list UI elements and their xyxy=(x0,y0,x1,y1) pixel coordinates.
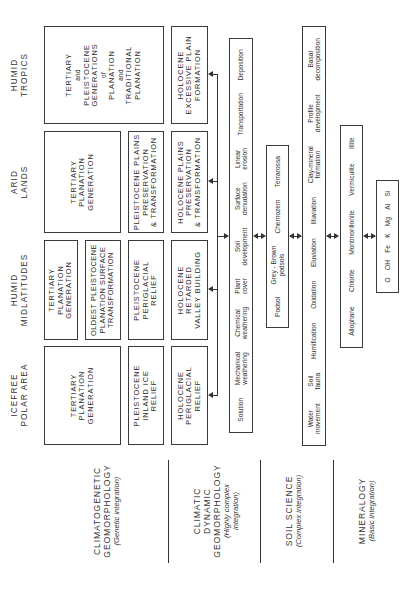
soil-types-box: Podsol Grey - Brownpodsols Chernozem Ter… xyxy=(266,145,289,328)
divider xyxy=(168,460,169,563)
element-al: Al xyxy=(384,204,391,210)
box-line: PLANATION xyxy=(107,50,116,99)
process-deposition: Deposition xyxy=(237,49,244,80)
soil-grey-brown-podsols: Grey - Brownpodsols xyxy=(270,246,285,285)
element-o: O xyxy=(384,277,391,282)
elements-box: O OH Fe K Mg Al Si xyxy=(376,180,399,293)
zone-header-line: LANDS xyxy=(20,166,29,199)
process-plant-cover: Plantcover xyxy=(234,278,249,294)
box-line: VALLEY BUILDING xyxy=(193,251,202,329)
soilproc-humification: Humification xyxy=(310,323,317,359)
tropics-tertiary-pleistocene-box: TERTIARY and PLEISTOCENE GENERATIONS of … xyxy=(44,26,164,124)
box-line: GENERATIONS xyxy=(90,43,99,106)
midlat-tertiary-box: TERTIARY PLANATION GENERATION xyxy=(44,240,78,340)
zone-header-line: TROPICS xyxy=(20,53,29,97)
box-line: GENERATION xyxy=(86,153,95,210)
zone-header-line: POLAR AREA xyxy=(20,364,29,427)
box-line: GENERATION xyxy=(86,367,95,424)
midlat-pleistocene-box: PLEISTOCENE PERIGLACIAL RELIEF xyxy=(128,240,164,340)
arid-pleistocene-box: PLEISTOCENE PLAINS PRESERVATION & TRANSF… xyxy=(128,131,164,233)
arrow-up-icon xyxy=(363,233,368,239)
integration-diagram: ICEFREE POLAR AREA HUMID MIDLATITUDES AR… xyxy=(0,0,406,589)
mineral-chlorite: Chlorite xyxy=(348,269,355,292)
discipline-mineralogy: MINERALOGY (Basic integration) xyxy=(357,451,376,571)
divider xyxy=(333,460,334,563)
zone-header-arid: ARID LANDS xyxy=(10,132,29,232)
process-mechanical-weathering: Mechanicalweathering xyxy=(234,352,249,385)
zone-header-line: HUMID xyxy=(10,59,19,91)
divider xyxy=(260,460,261,563)
element-si: Si xyxy=(384,191,391,197)
arid-tertiary-box: TERTIARY PLANATION GENERATION xyxy=(44,131,121,233)
box-line: GENERATION xyxy=(64,261,73,318)
icefree-pleistocene-box: PLEISTOCENE INLAND ICE RELIEF xyxy=(128,346,164,445)
midlat-oldest-pleistocene-box: OLDEST PLEISTOCENE PLANATION SURFACE TRA… xyxy=(85,240,121,340)
zone-header-midlatitudes: HUMID MIDLATITUDES xyxy=(10,240,29,340)
discipline-soil-science: SOIL SCIENCE (Complex integration) xyxy=(284,451,303,571)
zone-header-tropics: HUMID TROPICS xyxy=(10,25,29,125)
clay-minerals-box: Allophane Chlorite Montmorillonite Vermi… xyxy=(340,125,363,348)
process-chemical-weathering: Chemicalweathering xyxy=(234,307,249,339)
process-soil-development: Soildevelopment xyxy=(234,228,249,266)
soilproc-profile-development: Profiledevelopment xyxy=(307,95,322,133)
icefree-tertiary-box: TERTIARY PLANATION GENERATION xyxy=(44,346,121,445)
process-solution: Solution xyxy=(237,398,244,422)
box-line: RELIEF xyxy=(149,274,158,305)
soil-podsol: Podsol xyxy=(274,297,281,317)
element-oh: OH xyxy=(384,260,391,270)
arrow-up-icon xyxy=(289,233,294,239)
box-line: & TRANSFORMATION xyxy=(193,137,202,227)
element-fe: Fe xyxy=(384,245,391,253)
arid-holocene-box: HOLOCENE PLAINS PRESERVATION & TRANSFORM… xyxy=(171,131,208,233)
process-linear-erosion: Linearerosion xyxy=(234,148,249,170)
midlat-holocene-box: HOLOCENE RETARDED VALLEY BUILDING xyxy=(171,240,208,340)
arrow-up-icon xyxy=(253,233,258,239)
box-line: TERTIARY xyxy=(64,53,73,96)
arrow-up-icon xyxy=(208,286,213,292)
zone-header-line: HUMID xyxy=(10,274,19,306)
box-line: PLANATION xyxy=(133,50,142,99)
mineral-allophane: Allophane xyxy=(348,306,355,335)
mineral-vermiculite: Vermiculite xyxy=(348,163,355,195)
icefree-holocene-box: HOLOCENE PERIGLACIAL RELIEF xyxy=(171,346,208,445)
soilproc-clay-mineral-formation: Clay-mineralformation xyxy=(307,146,322,183)
arrow-up-icon xyxy=(208,392,213,398)
soil-processes-box: Watermovement Soilfauna Humification Oxi… xyxy=(302,26,326,446)
dynamic-processes-box: Solution Mechanicalweathering Chemicalwe… xyxy=(229,38,253,433)
box-line: FORMATION xyxy=(193,49,202,101)
soil-terrarossa: Terrarossa xyxy=(274,156,281,187)
soilproc-oxidation: Oxidation xyxy=(310,281,317,309)
arrow-up-icon xyxy=(208,178,213,184)
box-line: RELIEF xyxy=(193,380,202,411)
arrow-up-icon xyxy=(208,71,213,77)
mineral-montmorillonite: Montmorillonite xyxy=(348,210,355,255)
process-surface-denudation: Surfacedenudation xyxy=(234,182,249,215)
soilproc-soil-fauna: Soilfauna xyxy=(307,373,322,390)
box-line: RELIEF xyxy=(149,380,158,411)
process-transportation: Transportation xyxy=(237,93,244,135)
element-mg: Mg xyxy=(384,217,391,226)
discipline-climatic-dynamic: CLIMATIC DYNAMIC GEOMORPHOLOGY (Highly c… xyxy=(192,451,240,571)
soil-chernozem: Chernozem xyxy=(274,199,281,233)
zone-header-line: ICEFREE xyxy=(10,373,19,416)
soilproc-basal-decomposition: Basaldecomposition xyxy=(307,38,322,81)
discipline-climatogenetic: CLIMATOGENETIC GEOMORPHOLOGY (Genetic in… xyxy=(92,451,121,571)
arrow-down-icon xyxy=(334,233,339,239)
box-line: & TRANSFORMATION xyxy=(149,137,158,227)
tropics-holocene-box: HOLOCENE EXCESSIVE PLAIN FORMATION xyxy=(171,26,208,124)
zone-header-icefree: ICEFREE POLAR AREA xyxy=(10,345,29,445)
soilproc-illuviation: Illuviation xyxy=(310,197,317,225)
element-k: K xyxy=(384,233,391,237)
box-line: TRANSFORMATION xyxy=(106,252,115,328)
soilproc-eluviation: Eluviation xyxy=(310,238,317,267)
zone-header-line: MIDLATITUDES xyxy=(20,254,29,327)
soilproc-water-movement: Watermovement xyxy=(307,403,322,434)
arrow-up-icon xyxy=(326,233,331,239)
mineral-illite: Illite xyxy=(348,137,355,149)
zone-header-line: ARID xyxy=(10,170,19,194)
